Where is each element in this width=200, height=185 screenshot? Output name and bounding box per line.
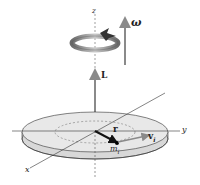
mass-subscript: i xyxy=(118,148,120,155)
mass-symbol: m xyxy=(110,144,118,153)
rotating-disk-diagram: z ω L y x r mi vi xyxy=(0,0,200,185)
position-vector-label: r xyxy=(113,125,118,134)
velocity-subscript: i xyxy=(153,136,155,143)
diagram-canvas xyxy=(0,0,200,185)
omega-label: ω xyxy=(131,17,141,28)
angular-momentum-label: L xyxy=(101,71,107,80)
z-axis-label: z xyxy=(92,8,96,15)
x-axis-label: x xyxy=(25,166,30,174)
mass-label: mi xyxy=(110,145,120,155)
velocity-label: vi xyxy=(148,132,156,143)
y-axis-label: y xyxy=(182,126,187,134)
